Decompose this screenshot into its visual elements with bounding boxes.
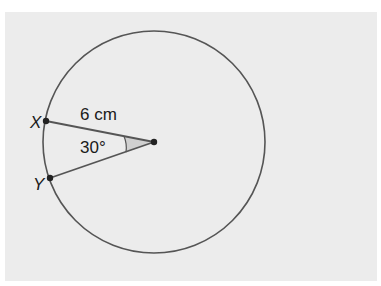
point-x <box>43 118 49 124</box>
point-y <box>47 175 53 181</box>
angle-label: 30° <box>80 138 106 157</box>
label-y: Y <box>33 175 46 194</box>
radius-label: 6 cm <box>80 105 117 124</box>
circle-diagram: X Y 6 cm 30° <box>0 0 381 286</box>
label-x: X <box>29 113 42 132</box>
point-center <box>151 139 157 145</box>
